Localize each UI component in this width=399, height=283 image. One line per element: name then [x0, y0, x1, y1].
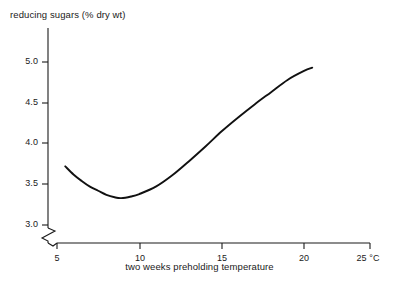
x-tick-label-25: 25 °C — [343, 253, 393, 263]
y-axis-break-icon — [42, 228, 55, 243]
chart-figure: reducing sugars (% dry wt) two weeks pre… — [0, 0, 399, 283]
x-tick-label-15: 15 — [197, 253, 247, 263]
y-tick-label-4-0: 4.0 — [12, 137, 38, 147]
y-tick-label-3-0: 3.0 — [12, 219, 38, 229]
data-series-line — [65, 68, 312, 198]
chart-canvas — [0, 0, 399, 283]
x-tick-label-10: 10 — [115, 253, 165, 263]
y-tick-label-4-5: 4.5 — [12, 97, 38, 107]
x-axis-break-icon — [48, 243, 57, 246]
y-tick-label-5-0: 5.0 — [12, 56, 38, 66]
x-tick-label-20: 20 — [279, 253, 329, 263]
x-tick-label-5: 5 — [32, 253, 82, 263]
y-tick-label-3-5: 3.5 — [12, 178, 38, 188]
